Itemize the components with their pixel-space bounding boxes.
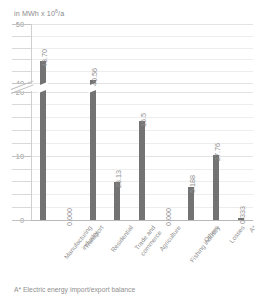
axis-unit-suffix: /a bbox=[58, 9, 64, 18]
bar-value-label: 27.76 bbox=[213, 143, 222, 161]
y-axis-tick-major bbox=[12, 220, 31, 221]
bar-value-label: 0.000 bbox=[164, 208, 173, 226]
bar-group: 40.56 bbox=[80, 24, 105, 220]
y-axis-tick-minor bbox=[12, 207, 31, 208]
footnote: A* Electric energy import/export balance bbox=[14, 286, 135, 293]
x-axis-category-label: Agriculture bbox=[158, 224, 183, 253]
y-axis-tick-minor bbox=[12, 71, 31, 72]
y-axis-tick-minor bbox=[12, 169, 31, 170]
x-axis-category-label-line: A* bbox=[247, 224, 256, 234]
axis-unit-caption: in MWh x 106/a bbox=[14, 8, 64, 18]
bar[interactable] bbox=[90, 80, 96, 220]
x-axis-category-label: Losses bbox=[228, 224, 246, 245]
bar-value-label: 23.13 bbox=[114, 170, 123, 188]
bar-value-label: 0.333 bbox=[238, 206, 247, 224]
bar-value-label: 0.000 bbox=[65, 208, 74, 226]
y-axis-tick-minor bbox=[12, 104, 31, 105]
x-axis-category-label: Residential bbox=[109, 224, 134, 254]
bar-value-label: 15.5 bbox=[139, 113, 148, 127]
y-axis-tick-minor bbox=[12, 36, 31, 37]
y-axis-tick-minor bbox=[12, 48, 31, 49]
y-axis-tick-minor bbox=[12, 143, 31, 144]
chart-figure: in MWh x 106/a A* Electric energy import… bbox=[0, 0, 256, 300]
bar-value-label: 43.70 bbox=[40, 49, 49, 67]
x-axis-category-label: Trade andcommerce bbox=[133, 224, 163, 257]
x-axis-category-label: A* bbox=[247, 224, 256, 234]
y-axis-tick-minor bbox=[12, 194, 31, 195]
x-axis-category-label-line: Residential bbox=[109, 224, 134, 253]
bar-group: 0.000 bbox=[56, 24, 81, 220]
bar-group: 15.5 bbox=[130, 24, 155, 220]
y-axis-tick-major bbox=[12, 156, 31, 157]
bar-group: 27.76 bbox=[204, 24, 229, 220]
bar-group: 0.000 bbox=[154, 24, 179, 220]
bar-group: 43.70 bbox=[31, 24, 56, 220]
bar-value-label: 40.56 bbox=[90, 68, 99, 86]
bar[interactable] bbox=[213, 155, 219, 220]
y-axis-tick-minor bbox=[12, 181, 31, 182]
x-axis-category-label-line: Agriculture bbox=[158, 224, 182, 252]
bar-group: 0.333 bbox=[228, 24, 253, 220]
axis-unit-prefix: in MWh x 10 bbox=[14, 9, 55, 18]
bar[interactable] bbox=[139, 121, 145, 220]
bar-group: 23.13 bbox=[105, 24, 130, 220]
bar-group: 5.188 bbox=[179, 24, 204, 220]
bar-value-label: 5.188 bbox=[188, 175, 197, 193]
y-axis-tick-minor bbox=[12, 117, 31, 118]
y-axis-break-icon bbox=[11, 80, 33, 94]
y-axis-tick-major bbox=[12, 24, 31, 25]
y-axis-tick-minor bbox=[12, 59, 31, 60]
x-axis-category-label-line: Losses bbox=[228, 224, 246, 244]
y-axis-tick-minor bbox=[12, 130, 31, 131]
